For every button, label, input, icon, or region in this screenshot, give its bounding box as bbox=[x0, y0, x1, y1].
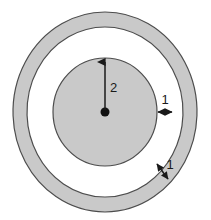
gap-dimension-label: 1 bbox=[161, 92, 168, 107]
band-dimension-label: 1 bbox=[166, 157, 173, 172]
radius-dimension-label: 2 bbox=[110, 80, 117, 95]
concentric-circles-diagram: 2 1 1 bbox=[0, 0, 211, 220]
geometry-figure: 2 1 1 bbox=[0, 0, 211, 220]
